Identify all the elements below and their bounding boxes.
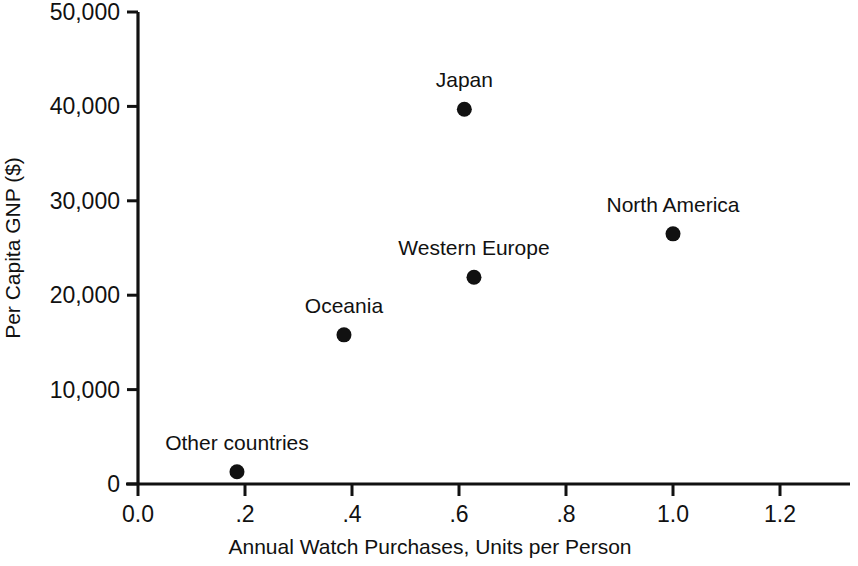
data-point-label: North America <box>606 193 739 216</box>
y-tick-label: 30,000 <box>50 188 120 214</box>
data-point-label: Oceania <box>305 294 384 317</box>
y-tick-label: 40,000 <box>50 93 120 119</box>
x-axis: 0.0.2.4.6.81.01.2 <box>122 484 850 527</box>
y-tick-label: 20,000 <box>50 282 120 308</box>
data-point-marker[interactable] <box>457 102 472 117</box>
x-tick-label: 1.2 <box>764 501 796 527</box>
data-point[interactable]: Western Europe <box>398 236 549 285</box>
data-point-marker[interactable] <box>229 464 244 479</box>
y-tick-label: 0 <box>107 471 120 497</box>
y-axis-title: Per Capita GNP ($) <box>1 157 24 339</box>
data-point-marker[interactable] <box>666 226 681 241</box>
x-tick-label: .6 <box>449 501 468 527</box>
y-tick-label: 10,000 <box>50 377 120 403</box>
data-point[interactable]: Other countries <box>165 431 309 480</box>
data-point[interactable]: Japan <box>436 68 493 117</box>
data-point-marker[interactable] <box>336 327 351 342</box>
data-point-label: Western Europe <box>398 236 549 259</box>
data-point[interactable]: North America <box>606 193 739 242</box>
data-point[interactable]: Oceania <box>305 294 384 343</box>
y-tick-label: 50,000 <box>50 0 120 25</box>
x-tick-label: .8 <box>556 501 575 527</box>
x-tick-label: .4 <box>342 501 361 527</box>
x-axis-title: Annual Watch Purchases, Units per Person <box>228 535 631 558</box>
data-point-label: Other countries <box>165 431 309 454</box>
chart-svg: 010,00020,00030,00040,00050,000 0.0.2.4.… <box>0 0 858 566</box>
x-tick-label: 0.0 <box>122 501 154 527</box>
x-tick-label: .2 <box>235 501 254 527</box>
y-axis: 010,00020,00030,00040,00050,000 <box>50 0 138 497</box>
data-point-marker[interactable] <box>466 270 481 285</box>
data-points-layer: Other countriesOceaniaWestern EuropeJapa… <box>165 68 740 479</box>
x-tick-label: 1.0 <box>657 501 689 527</box>
data-point-label: Japan <box>436 68 493 91</box>
scatter-chart: 010,00020,00030,00040,00050,000 0.0.2.4.… <box>0 0 858 566</box>
